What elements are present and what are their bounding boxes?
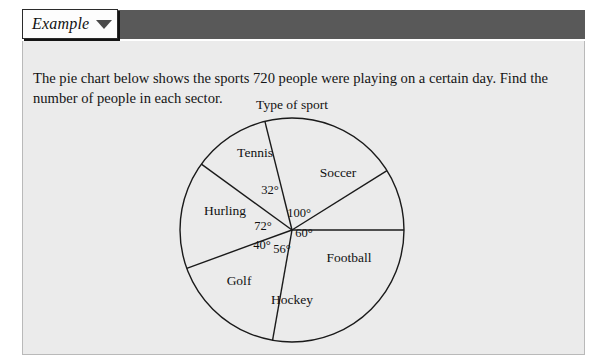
pie-radius-line: [292, 171, 387, 230]
angle-label-golf: 40°: [253, 238, 271, 253]
sector-label-tennis: Tennis: [237, 145, 273, 161]
angle-label-hurling: 72°: [254, 219, 272, 234]
pie-geometry: [180, 118, 404, 342]
example-tab[interactable]: Example: [22, 9, 118, 39]
angle-label-hockey: 56°: [273, 242, 291, 257]
sector-label-hurling: Hurling: [204, 203, 246, 219]
pie-radius-line: [201, 164, 292, 230]
question-text: The pie chart below shows the sports 720…: [33, 68, 578, 109]
chevron-down-icon[interactable]: [96, 20, 112, 29]
sector-label-golf: Golf: [227, 273, 252, 289]
pie-radius-line: [265, 121, 292, 230]
pie-radius-line: [273, 230, 292, 340]
example-tab-label: Example: [32, 16, 89, 32]
pie-radius-line: [187, 230, 292, 268]
sector-label-hockey: Hockey: [271, 292, 313, 308]
content-panel: The pie chart below shows the sports 720…: [22, 41, 585, 355]
page-root: Example The pie chart below shows the sp…: [0, 0, 603, 363]
sector-label-football: Football: [326, 250, 371, 266]
angle-label-football: 60°: [295, 226, 313, 241]
angle-label-tennis: 32°: [261, 183, 279, 198]
pie-outline: [180, 118, 404, 342]
sector-label-soccer: Soccer: [320, 165, 357, 181]
angle-label-soccer: 100°: [287, 206, 311, 221]
